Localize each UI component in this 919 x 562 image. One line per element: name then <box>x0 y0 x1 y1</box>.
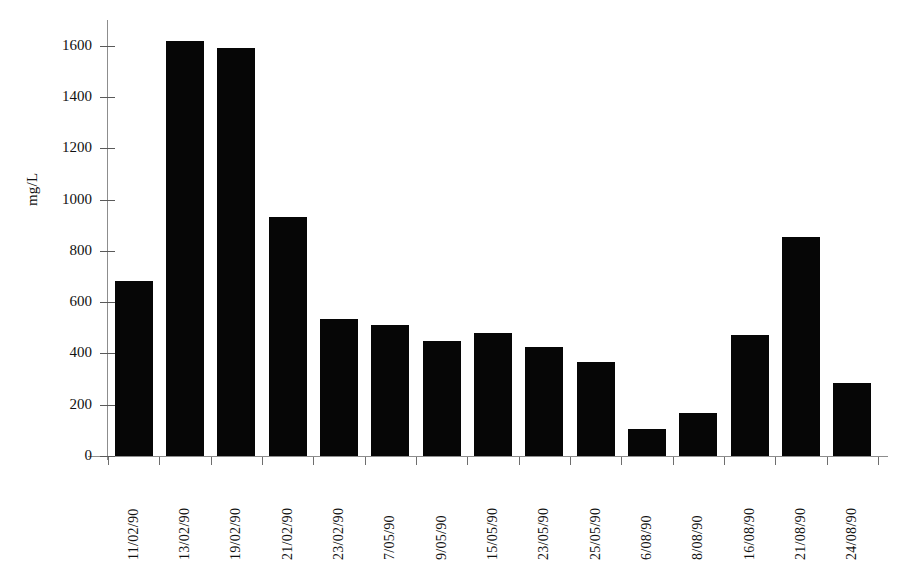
x-axis-tick <box>724 457 725 465</box>
y-axis-tick-label-wrap: 600 <box>30 302 92 303</box>
y-axis-tick-label-wrap: 400 <box>30 353 92 354</box>
x-axis-tick <box>673 457 674 465</box>
x-axis-tick-label: 24/08/90 <box>845 470 859 560</box>
bar <box>320 319 358 456</box>
x-axis-tick <box>519 457 520 465</box>
bar <box>525 347 563 456</box>
x-axis-tick-label: 9/05/90 <box>435 470 449 560</box>
x-axis-tick-label: 25/05/90 <box>589 470 603 560</box>
y-axis-tick-label: 200 <box>32 397 92 412</box>
x-axis-tick-label: 8/08/90 <box>691 470 705 560</box>
x-axis-tick <box>262 457 263 465</box>
bar <box>166 41 204 456</box>
x-axis-tick <box>775 457 776 465</box>
bar-chart: mg/L 02004006008001000120014001600 11/02… <box>0 0 919 562</box>
y-axis-tick-label-wrap: 1200 <box>30 148 92 149</box>
x-axis-tick <box>108 457 109 465</box>
y-axis-tick-label: 1000 <box>32 192 92 207</box>
y-axis-tick-label: 800 <box>32 243 92 258</box>
x-axis-tick-label: 11/02/90 <box>127 470 141 560</box>
bar <box>371 325 409 456</box>
x-axis-tick-label: 13/02/90 <box>178 470 192 560</box>
bar <box>628 429 666 456</box>
bar <box>217 48 255 456</box>
y-axis-tick-label-wrap: 1400 <box>30 97 92 98</box>
bar <box>577 362 615 456</box>
bar <box>423 341 461 456</box>
bar <box>679 413 717 456</box>
x-axis-tick <box>365 457 366 465</box>
y-axis-tick-label: 400 <box>32 345 92 360</box>
plot-area <box>108 20 878 456</box>
x-axis-tick <box>878 457 879 465</box>
x-axis-tick-label: 19/02/90 <box>229 470 243 560</box>
x-axis-tick-label: 16/08/90 <box>743 470 757 560</box>
bar <box>474 333 512 456</box>
y-axis-tick-label-wrap: 800 <box>30 251 92 252</box>
bar <box>782 237 820 456</box>
x-axis-tick-label: 7/05/90 <box>383 470 397 560</box>
y-axis-tick-label-wrap: 200 <box>30 405 92 406</box>
x-axis-tick <box>467 457 468 465</box>
bar <box>269 217 307 456</box>
x-axis-tick-label: 21/02/90 <box>281 470 295 560</box>
x-axis-tick <box>313 457 314 465</box>
x-axis-tick <box>570 457 571 465</box>
bar <box>731 335 769 456</box>
x-axis-tick-label: 15/05/90 <box>486 470 500 560</box>
x-axis-tick <box>211 457 212 465</box>
bar <box>833 383 871 456</box>
x-axis-tick <box>621 457 622 465</box>
x-axis-line <box>88 456 888 457</box>
y-axis-tick-label: 1600 <box>32 38 92 53</box>
y-axis-tick-label-wrap: 1600 <box>30 46 92 47</box>
x-axis-tick-label: 6/08/90 <box>640 470 654 560</box>
x-axis-tick <box>159 457 160 465</box>
bar <box>115 281 153 456</box>
y-axis-tick-label: 0 <box>32 448 92 463</box>
x-axis-tick <box>416 457 417 465</box>
x-axis-tick <box>827 457 828 465</box>
y-axis-tick-label: 600 <box>32 294 92 309</box>
x-axis-tick-label: 23/02/90 <box>332 470 346 560</box>
y-axis-tick-label-wrap: 0 <box>30 456 92 457</box>
y-axis-tick-label: 1400 <box>32 89 92 104</box>
y-axis-tick-label: 1200 <box>32 140 92 155</box>
x-axis-tick-label: 23/05/90 <box>537 470 551 560</box>
y-axis-tick-label-wrap: 1000 <box>30 200 92 201</box>
x-axis-tick-label: 21/08/90 <box>794 470 808 560</box>
